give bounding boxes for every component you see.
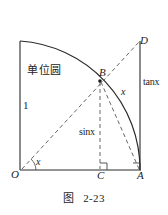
label-radius-one: 1: [23, 100, 29, 111]
label-tanx: tanx: [143, 77, 159, 87]
label-sinx: sinx: [79, 127, 95, 137]
label-point-d: D: [140, 35, 148, 46]
label-point-c: C: [97, 170, 104, 181]
label-point-o: O: [11, 169, 19, 180]
figure-caption: 图2-23: [0, 189, 168, 205]
segment-ba-chord: [101, 82, 139, 169]
figure-2-23: O C A B D 单位圆 1 x x sinx tanx 图2-23: [0, 0, 168, 215]
label-arc-x: x: [121, 87, 125, 97]
caption-label: 图: [63, 192, 74, 205]
label-point-b: B: [99, 67, 106, 78]
point-b-marker: [98, 79, 102, 83]
label-unit-circle: 单位圆: [27, 65, 62, 76]
caption-number: 2-23: [83, 192, 104, 204]
label-point-a: A: [137, 170, 144, 181]
label-angle-x: x: [36, 157, 40, 167]
